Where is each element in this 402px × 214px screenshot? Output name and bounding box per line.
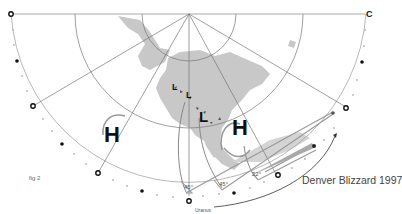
low-pressure-1: L bbox=[172, 83, 178, 92]
high-pressure-east: H bbox=[232, 117, 248, 139]
high-pressure-west: H bbox=[104, 124, 120, 146]
angle-label-3: 22° bbox=[252, 171, 261, 177]
low-pressure-3: L bbox=[199, 109, 208, 124]
low-pressure-2: L bbox=[186, 91, 192, 100]
diagram-title: Denver Blizzard 1997 bbox=[302, 174, 402, 186]
uranus-label: Uranus bbox=[195, 207, 211, 213]
corner-label: C bbox=[366, 9, 373, 19]
angle-label-2: 45° bbox=[219, 181, 228, 187]
angle-label-1: 45° bbox=[184, 184, 193, 190]
aspect-endpoint-dot bbox=[331, 111, 335, 115]
arrowhead-icon bbox=[333, 133, 337, 138]
figure-label: fig 2 bbox=[29, 175, 40, 181]
blizzard-marker bbox=[312, 144, 316, 148]
